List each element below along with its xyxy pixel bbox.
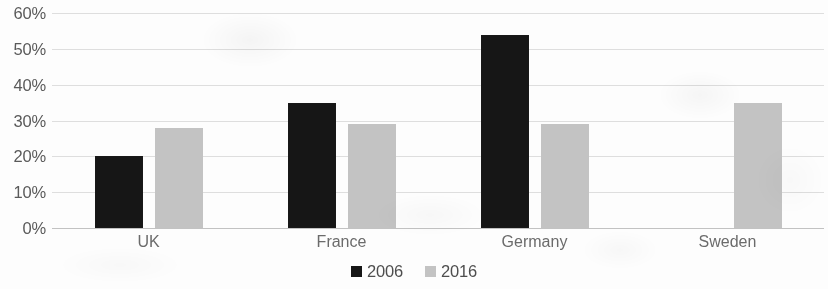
x-axis-category-labels: UKFranceGermanySweden <box>52 233 824 259</box>
x-tick-label-germany: Germany <box>502 233 568 251</box>
bar-sweden-2016 <box>734 103 782 228</box>
x-tick-label-uk: UK <box>137 233 159 251</box>
y-tick-label: 60% <box>0 4 46 23</box>
legend-label: 2016 <box>441 262 477 281</box>
y-tick-label: 50% <box>0 39 46 58</box>
x-tick-label-sweden: Sweden <box>699 233 757 251</box>
legend-item-2016[interactable]: 2016 <box>425 262 477 281</box>
bar-uk-2006 <box>95 156 143 228</box>
y-tick-label: 10% <box>0 183 46 202</box>
bar-germany-2016 <box>541 124 589 228</box>
y-tick-label: 20% <box>0 147 46 166</box>
plot-area <box>52 10 824 229</box>
bar-uk-2016 <box>155 128 203 228</box>
bar-france-2006 <box>288 103 336 228</box>
legend-swatch-icon <box>351 266 362 277</box>
x-tick-label-france: France <box>317 233 367 251</box>
y-axis-tick-labels: 0%10%20%30%40%50%60% <box>0 0 46 289</box>
bar-france-2016 <box>348 124 396 228</box>
y-tick-label: 0% <box>0 219 46 238</box>
bar-chart: 0%10%20%30%40%50%60% UKFranceGermanySwed… <box>0 0 828 289</box>
legend-label: 2006 <box>367 262 403 281</box>
y-tick-label: 40% <box>0 75 46 94</box>
legend-swatch-icon <box>425 266 436 277</box>
legend-item-2006[interactable]: 2006 <box>351 262 403 281</box>
bar-germany-2006 <box>481 35 529 229</box>
chart-legend: 20062016 <box>0 262 828 281</box>
y-tick-label: 30% <box>0 111 46 130</box>
bars-layer <box>52 10 824 229</box>
